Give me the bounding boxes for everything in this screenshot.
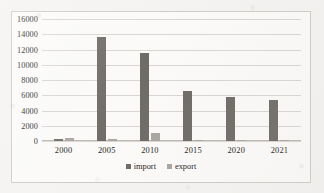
bar-import[interactable] [183, 91, 192, 141]
legend-swatch-import-icon [126, 164, 131, 169]
y-axis-tick-label: 0 [34, 137, 38, 146]
legend-label-export: export [175, 162, 196, 171]
bar-group [128, 19, 171, 141]
plot-area: 1600014000120001000080006000400020000 [42, 19, 301, 141]
chart-legend: import export [12, 162, 310, 171]
bar-export[interactable] [194, 140, 203, 141]
bar-import[interactable] [97, 37, 106, 141]
legend-label-import: import [134, 162, 156, 171]
x-axis-labels: 200020052010201520202021 [42, 146, 301, 155]
bar-import[interactable] [226, 97, 235, 141]
bar-group [42, 19, 85, 141]
legend-item-import[interactable]: import [126, 162, 156, 171]
y-axis-tick-label: 4000 [21, 106, 38, 115]
bar-import[interactable] [140, 53, 149, 141]
bar-import[interactable] [54, 139, 63, 141]
y-axis-tick-label: 10000 [17, 60, 38, 69]
y-axis-tick-label: 8000 [21, 76, 38, 85]
x-axis-tick-label: 2021 [258, 146, 301, 155]
y-axis-tick-label: 6000 [21, 91, 38, 100]
legend-item-export[interactable]: export [167, 162, 196, 171]
chart-container: 1600014000120001000080006000400020000 20… [11, 11, 311, 183]
bar-export[interactable] [237, 140, 246, 141]
x-axis-tick-label: 2015 [172, 146, 215, 155]
gridline: 0 [42, 141, 301, 142]
bar-import[interactable] [269, 100, 278, 141]
bar-export[interactable] [280, 140, 289, 141]
y-axis-tick-label: 14000 [17, 30, 38, 39]
legend-swatch-export-icon [167, 164, 172, 169]
bar-group [85, 19, 128, 141]
y-axis-tick-label: 16000 [17, 15, 38, 24]
bar-export[interactable] [108, 139, 117, 141]
bar-group [215, 19, 258, 141]
y-axis-tick-label: 2000 [21, 121, 38, 130]
bar-export[interactable] [151, 133, 160, 141]
bar-group [258, 19, 301, 141]
x-axis-tick-label: 2010 [128, 146, 171, 155]
bar-group [172, 19, 215, 141]
bar-export[interactable] [65, 138, 74, 141]
bar-series-container [42, 19, 301, 141]
x-axis-tick-label: 2000 [42, 146, 85, 155]
x-axis-tick-label: 2020 [215, 146, 258, 155]
y-axis-tick-label: 12000 [17, 45, 38, 54]
x-axis-tick-label: 2005 [85, 146, 128, 155]
